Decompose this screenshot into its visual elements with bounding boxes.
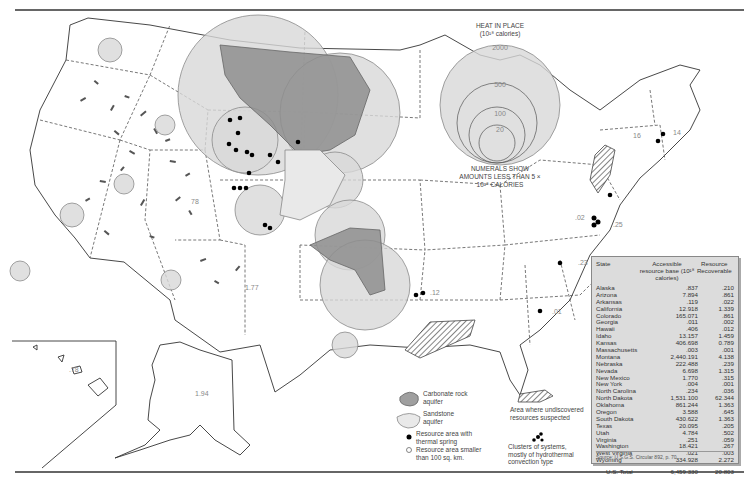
table-row: Texas20.095.205 — [596, 423, 734, 430]
table-header: State Accessible resource base (10¹⁸ cal… — [592, 257, 738, 283]
header-accessible: Accessible resource base (10¹⁸ calories) — [639, 260, 694, 281]
label-virginia: .25 — [613, 221, 623, 228]
label-arizona: 1.77 — [245, 284, 259, 291]
undiscovered-swatch — [518, 390, 553, 402]
thermal-spring-swatch — [407, 435, 412, 440]
table-row: South Dakota430.6221.363 — [596, 416, 734, 423]
hawaii-value: .78 — [69, 366, 79, 373]
label-new-york: 16 — [633, 132, 641, 139]
legend-carbonate: Carbonate rock aquifer — [423, 390, 485, 405]
inset-alaska-hawaii: .78 1.94 — [12, 341, 250, 468]
table-total-row: U.S. Total 6,459.330 20.803 — [592, 468, 738, 476]
table-rows: Alaska.837.210 Arizona7.894.861 Arkansas… — [592, 283, 738, 464]
carbonate-swatch — [400, 392, 419, 406]
total-label: U.S. Total — [596, 468, 652, 476]
heat-legend-title: HEAT IN PLACE (10¹⁸ calories) — [460, 22, 540, 38]
label-nevada: 78 — [191, 198, 199, 205]
label-arkansas: .12 — [430, 289, 440, 296]
header-recoverable: Resource Recoverable — [695, 260, 734, 281]
label-north-carolina: .23 — [578, 259, 588, 266]
legend-small-area: Resource area smaller than 100 sq. km. — [416, 446, 486, 461]
legend-clusters: Clusters of systems, mostly of hydrother… — [508, 443, 586, 466]
sandstone-swatch — [397, 414, 420, 429]
heat-unit: (10¹⁸ calories) — [460, 30, 540, 38]
heat-title: HEAT IN PLACE — [460, 22, 540, 30]
label-georgia: .01 — [552, 308, 562, 315]
clusters-swatch — [532, 432, 543, 442]
ring-2000: 2000 — [492, 44, 508, 51]
table-row: Idaho13.1571.459 — [596, 333, 734, 340]
numerals-note: NUMERALS SHOW AMOUNTS LESS THAN 5 × 10¹⁸… — [455, 165, 545, 189]
legend-sandstone: Sandstone aquifer — [423, 410, 473, 425]
label-massachusetts: 14 — [673, 129, 681, 136]
table-row: Hawaii.406.012 — [596, 326, 734, 333]
table-row: Georgia.011.002 — [596, 319, 734, 326]
header-state: State — [596, 260, 639, 281]
small-area-swatch — [407, 448, 412, 453]
legend-undiscovered: Area where undiscovered resources suspec… — [510, 406, 590, 421]
ring-100: 100 — [494, 110, 506, 117]
alaska-value: 1.94 — [195, 390, 209, 397]
ring-20: 20 — [496, 126, 504, 133]
label-west-virginia: .02 — [575, 214, 585, 221]
table-source: Source: U.S.G.S. Circular 892, p. 70 — [596, 451, 732, 460]
heat-legend-circles: 2000 500 100 20 — [440, 44, 560, 165]
state-resource-table: State Accessible resource base (10¹⁸ cal… — [591, 256, 739, 464]
total-recoverable: 20.803 — [698, 468, 734, 476]
ring-500: 500 — [494, 81, 506, 88]
legend-thermal-spring: Resource area with thermal spring — [416, 430, 478, 445]
total-accessible: 6,459.330 — [652, 468, 698, 476]
